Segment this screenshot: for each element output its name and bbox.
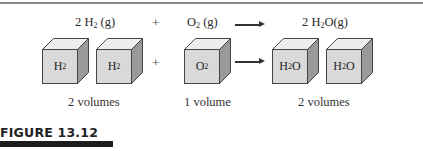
- cube-h2o-2: H2O: [326, 37, 373, 81]
- plus-sign: +: [152, 55, 159, 71]
- state: (g): [97, 15, 115, 29]
- reaction-arrow-icon: [235, 61, 261, 63]
- coefficient: 2: [302, 15, 308, 29]
- cube-label: H2: [42, 50, 78, 83]
- cube-h2-2: H2: [96, 37, 143, 81]
- top-rule: [0, 2, 423, 4]
- equation-reactant-h2: 2 H2 (g): [75, 15, 115, 30]
- formula: O: [187, 15, 196, 29]
- state: (g): [200, 15, 218, 29]
- figure-label: FIGURE 13.12: [0, 125, 98, 140]
- cube-label: H2O: [326, 50, 362, 83]
- formula-rest: O(g): [324, 15, 348, 29]
- cube-h2-1: H2: [42, 37, 89, 81]
- coefficient: 2: [75, 15, 81, 29]
- plus-sign: +: [152, 15, 159, 31]
- figure-label-bar: [0, 141, 113, 147]
- cube-label: O2: [184, 50, 220, 83]
- volume-label-reactant1: 2 volumes: [68, 95, 120, 110]
- equation-reactant-o2: O2 (g): [187, 15, 218, 30]
- volume-label-product: 2 volumes: [298, 95, 350, 110]
- equation-product-h2o: 2 H2O(g): [302, 15, 348, 30]
- volume-label-reactant2: 1 volume: [184, 95, 231, 110]
- cube-label: H2O: [272, 50, 308, 83]
- reaction-arrow-icon: [235, 24, 261, 26]
- cube-label: H2: [96, 50, 132, 83]
- cube-o2: O2: [184, 37, 231, 81]
- cube-h2o-1: H2O: [272, 37, 319, 81]
